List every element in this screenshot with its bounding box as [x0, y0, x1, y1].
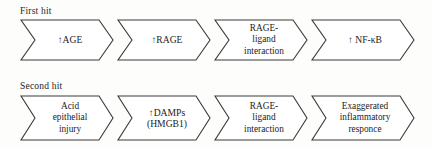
chevron-shape-acid-epithelial-injury — [21, 96, 113, 140]
chevron-label-rage: ↑RAGE — [132, 20, 202, 60]
chevron-label-nf-kb: ↑ NF-κB — [326, 20, 404, 60]
chevron-shape-damps-hmgb1 — [118, 96, 210, 140]
chevron-shape-rage — [118, 20, 210, 60]
chevron-label-rage-ligand-interaction-2: RAGE- ligand interaction — [229, 96, 299, 140]
chevron-label-age: ↑AGE — [35, 20, 105, 60]
chevron-shapes-layer — [0, 0, 432, 148]
chevron-label-damps-hmgb1: ↑DAMPs (HMGB1) — [132, 96, 202, 140]
chevron-shape-rage-ligand-interaction — [215, 20, 307, 60]
chevron-shape-age — [21, 20, 113, 60]
row-label-first-hit: First hit — [20, 6, 52, 16]
chevron-shape-nf-kb — [312, 20, 414, 60]
row-label-second-hit: Second hit — [20, 81, 62, 91]
chevron-label-exaggerated-inflammatory-responce: Exaggerated inflammatory responce — [326, 96, 404, 140]
chevron-label-rage-ligand-interaction: RAGE- ligand interaction — [229, 20, 299, 60]
chevron-shape-exaggerated-inflammatory-responce — [312, 96, 414, 140]
figure-root: First hit Second hit ↑AGE ↑RAGE RAGE- li… — [0, 0, 432, 148]
chevron-label-acid-epithelial-injury: Acid epithelial injury — [35, 96, 105, 140]
chevron-shape-rage-ligand-interaction-2 — [215, 96, 307, 140]
